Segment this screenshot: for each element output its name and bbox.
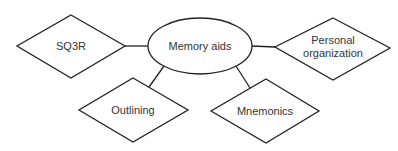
node-label: SQ3R: [56, 40, 86, 52]
edge-memory-aids-outlining: [149, 66, 164, 87]
node-label: Memory aids: [169, 40, 232, 52]
node-label-line-1: Personal: [311, 34, 354, 46]
node-personal-organization: Personal organization: [275, 18, 390, 80]
edge-memory-aids-personal-organization: [252, 46, 275, 47]
edge-memory-aids-mnemonics: [236, 66, 250, 88]
node-label: Mnemonics: [237, 105, 294, 117]
concept-map: Memory aids SQ3R Personal organization O…: [0, 0, 398, 151]
node-mnemonics: Mnemonics: [211, 79, 319, 143]
node-sq3r: SQ3R: [17, 15, 125, 78]
node-label: Outlining: [111, 104, 154, 116]
node-memory-aids: Memory aids: [148, 18, 252, 74]
node-outlining: Outlining: [79, 78, 188, 142]
node-label-line-2: organization: [303, 47, 363, 59]
